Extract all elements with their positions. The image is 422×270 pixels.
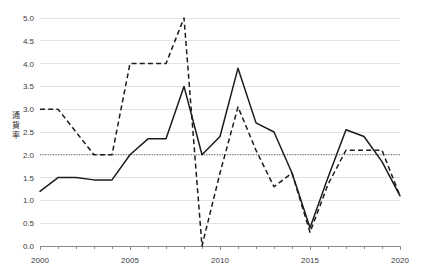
tick-labels-group: 0.00.51.01.52.02.53.03.54.04.55.02000200… [12,14,409,265]
y-tick-label: 4.5 [23,37,35,46]
y-axis-title-char: 率 [12,130,20,140]
y-tick-label: 2.0 [23,151,35,160]
x-tick-label: 2005 [121,256,139,265]
x-tick-label: 2020 [391,256,409,265]
line-chart: 0.00.51.01.52.02.53.03.54.04.55.02000200… [0,0,422,270]
y-axis-title-char: 通 [12,110,20,120]
y-tick-label: 3.5 [23,82,35,91]
y-tick-label: 2.5 [23,128,35,137]
y-tick-label: 3.0 [23,105,35,114]
gridlines-group [40,18,400,223]
y-axis-title-char: 貨 [12,120,20,130]
x-tick-label: 2015 [301,256,319,265]
y-tick-label: 5.0 [23,14,35,23]
axes-group [40,246,400,250]
y-tick-label: 0.5 [23,219,35,228]
y-tick-label: 1.0 [23,196,35,205]
y-tick-label: 1.5 [23,174,35,183]
x-tick-label: 2000 [31,256,49,265]
y-tick-label: 0.0 [23,242,35,251]
y-tick-label: 4.0 [23,60,35,69]
chart-canvas: 0.00.51.01.52.02.53.03.54.04.55.02000200… [0,0,422,270]
series-line-solid-series [40,68,400,228]
x-tick-label: 2010 [211,256,229,265]
